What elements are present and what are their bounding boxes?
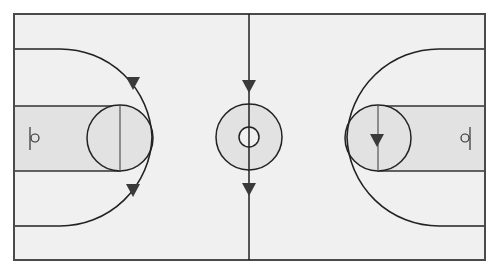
- court-svg: [0, 0, 500, 274]
- court-diagram: Basketball court play diagram: [0, 0, 500, 274]
